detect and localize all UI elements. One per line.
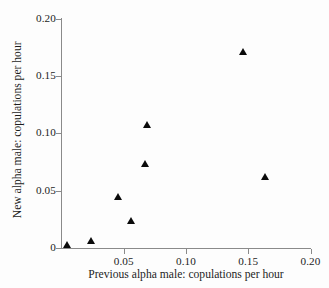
x-tick-label-2: 0.10 [163, 256, 209, 267]
data-point-marker [114, 193, 122, 200]
data-point-marker [143, 121, 151, 128]
data-point-marker [63, 241, 71, 248]
y-tick-0 [56, 248, 61, 249]
y-tick-2 [56, 133, 61, 134]
x-tick-1 [124, 249, 125, 254]
data-point-marker [87, 237, 95, 244]
data-point-marker [261, 173, 269, 180]
scatter-plot-figure: 00.050.100.150.20 00.050.100.150.20 Prev… [0, 0, 329, 288]
y-axis-line [61, 18, 62, 249]
x-tick-4 [311, 249, 312, 254]
data-point-marker [141, 160, 149, 167]
x-tick-label-3: 0.15 [225, 256, 271, 267]
data-point-marker [239, 48, 247, 55]
data-point-marker [127, 217, 135, 224]
x-axis-label: Previous alpha male: copulations per hou… [61, 269, 311, 281]
x-tick-2 [186, 249, 187, 254]
x-tick-3 [248, 249, 249, 254]
y-tick-4 [56, 19, 61, 20]
x-tick-label-1: 0.05 [101, 256, 147, 267]
y-tick-3 [56, 76, 61, 77]
y-tick-1 [56, 191, 61, 192]
x-tick-label-4: 0.20 [288, 256, 329, 267]
y-axis-label: New alpha male: copulations per hour [12, 10, 24, 250]
